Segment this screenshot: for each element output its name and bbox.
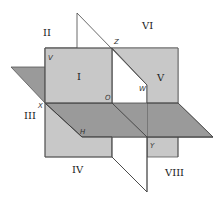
octant-label-i: I — [77, 71, 81, 82]
point-label-w: W — [139, 85, 147, 93]
octant-label-vi: VI — [141, 20, 153, 31]
octant-label-iii: III — [24, 110, 36, 121]
point-label-o: O — [105, 94, 111, 102]
octant-label-v: V — [156, 72, 165, 83]
point-label-h: H — [80, 128, 86, 136]
octant-diagram: II VI I V III IV VIII Z V O W X H Y — [0, 0, 218, 200]
octant-label-viii: VIII — [164, 167, 184, 178]
point-label-z: Z — [113, 38, 119, 46]
point-label-x: X — [37, 102, 43, 110]
profile-plane-front-lower — [112, 137, 147, 192]
octant-label-iv: IV — [72, 164, 84, 175]
horizontal-plane-right — [147, 103, 213, 137]
horizontal-plane-left-back — [11, 67, 45, 103]
octant-label-ii: II — [43, 27, 51, 38]
point-label-y: Y — [150, 142, 155, 150]
